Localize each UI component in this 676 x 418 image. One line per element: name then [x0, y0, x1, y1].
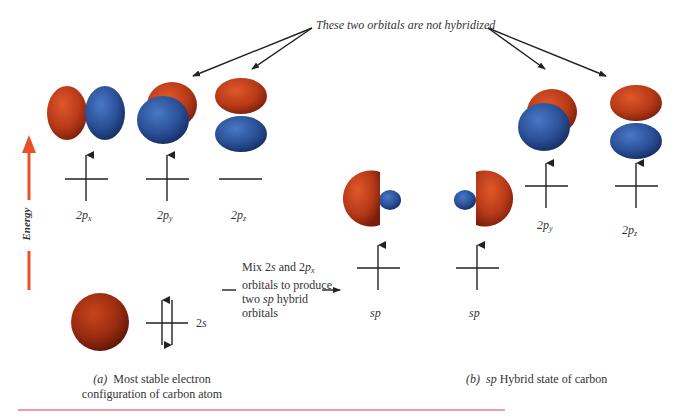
annotation-arrows: [193, 28, 606, 76]
diagram-canvas: [0, 0, 676, 418]
orbital-b-2py-shape: [518, 89, 577, 151]
annotation-text: These two orbitals are not hybridized: [316, 18, 495, 33]
mix-note-line4: orbitals: [242, 306, 332, 320]
electron-box-2py: [146, 155, 189, 201]
label-sp-1: sp: [370, 306, 381, 321]
label-sp-2: sp: [469, 306, 480, 321]
sp-hybrid-2-shape: [454, 171, 513, 227]
label-2pz: 2pz: [231, 208, 246, 223]
mix-note-line1: Mix 2s and 2px: [242, 260, 332, 278]
orbital-2pz-shape: [215, 78, 267, 152]
mix-note-line2: orbitals to produce: [242, 278, 332, 292]
electron-box-sp-2: [456, 245, 499, 290]
caption-b: (b) sp Hybrid state of carbon: [466, 372, 607, 387]
electron-box-b-2pz: [615, 163, 658, 208]
electron-box-sp-1: [357, 245, 400, 290]
label-b-2pz: 2pz: [622, 223, 637, 238]
mix-note: Mix 2s and 2px orbitals to produce two s…: [242, 260, 332, 320]
orbital-2s-shape: [71, 293, 129, 351]
label-2s: 2s: [196, 316, 207, 331]
label-2py: 2py: [157, 208, 173, 223]
energy-arrow-icon: [22, 135, 36, 153]
orbital-2px-shape: [47, 86, 125, 140]
sp-hybrid-1-shape: [343, 171, 401, 227]
electron-box-b-2py: [525, 163, 568, 208]
orbital-2py-shape: [137, 82, 197, 144]
orbital-b-2pz-shape: [610, 85, 662, 159]
electron-box-2px: [65, 155, 108, 201]
caption-a: (a) Most stable electron configuration o…: [72, 372, 232, 402]
energy-label: Energy: [20, 206, 40, 242]
electron-box-2s: [146, 300, 188, 345]
label-2px: 2px: [76, 208, 92, 223]
label-b-2py: 2py: [537, 218, 553, 233]
mix-note-line3: two sp hybrid: [242, 292, 332, 306]
